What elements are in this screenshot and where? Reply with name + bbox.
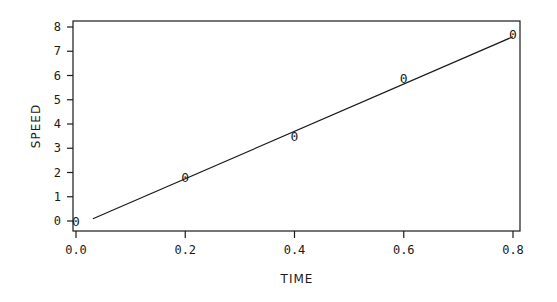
data-point-marker: 0: [400, 71, 408, 86]
x-tick-label: 0.2: [174, 243, 196, 257]
data-point-marker: 0: [72, 214, 80, 229]
x-tick-label: 0.6: [393, 243, 415, 257]
data-point-marker: 0: [291, 129, 299, 144]
x-tick-label: 0.8: [502, 243, 524, 257]
plot-frame: [73, 21, 520, 231]
data-point-marker: 0: [509, 27, 517, 42]
fit-line: [93, 37, 513, 219]
y-axis: 012345678: [54, 20, 73, 228]
y-tick-label: 4: [54, 117, 61, 131]
x-tick-label: 0.0: [65, 243, 87, 257]
data-point-marker: 0: [181, 170, 189, 185]
y-tick-label: 6: [54, 69, 61, 83]
y-tick-label: 7: [54, 44, 61, 58]
x-axis: 0.00.20.40.60.8: [65, 231, 524, 257]
y-tick-label: 5: [54, 93, 61, 107]
y-axis-title: SPEED: [29, 104, 43, 148]
y-tick-label: 8: [54, 20, 61, 34]
regression-line: [93, 37, 513, 219]
x-axis-title: TIME: [280, 272, 314, 286]
x-tick-label: 0.4: [284, 243, 306, 257]
plot-border: [73, 21, 520, 231]
y-tick-label: 1: [54, 190, 61, 204]
chart: 012345678 0.00.20.40.60.8 00000 TIME SPE…: [0, 0, 557, 302]
y-tick-label: 3: [54, 141, 61, 155]
y-tick-label: 0: [54, 214, 61, 228]
y-tick-label: 2: [54, 166, 61, 180]
